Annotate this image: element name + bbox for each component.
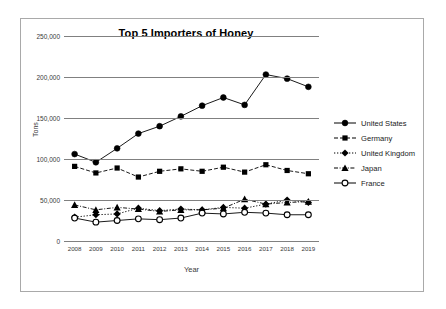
legend-item-united-kingdom[interactable]: United Kingdom: [333, 148, 415, 158]
data-point-marker: [93, 170, 98, 175]
x-axis-tick-label: 2018: [280, 245, 294, 252]
data-point-marker: [178, 166, 183, 171]
data-point-marker: [136, 174, 141, 179]
legend-item-japan[interactable]: Japan: [333, 163, 415, 173]
series-japan: [71, 196, 312, 215]
legend-item-united-states[interactable]: United States: [333, 118, 415, 128]
plot-area: 050,000100,000150,000200,000250,000 2008…: [64, 36, 319, 241]
x-axis-title: Year: [64, 265, 319, 274]
data-point-marker: [305, 212, 311, 218]
x-axis-tick-label: 2017: [259, 245, 273, 252]
data-point-marker: [306, 171, 311, 176]
data-point-marker: [115, 165, 120, 170]
gridline: [64, 77, 319, 78]
data-point-marker: [157, 169, 162, 174]
legend-key-icon: [333, 163, 357, 173]
x-axis-tick-label: 2014: [195, 245, 209, 252]
data-point-marker: [72, 151, 78, 157]
x-axis-tick-label: 2019: [301, 245, 315, 252]
gridline: [64, 159, 319, 160]
series-line: [75, 212, 309, 222]
chart-container: Top 5 Importers of Honey Tons 050,000100…: [20, 18, 424, 292]
data-point-marker: [178, 215, 184, 221]
data-point-marker: [285, 168, 290, 173]
y-axis-tick-label: 0: [56, 238, 60, 245]
legend-key-icon: [333, 133, 357, 143]
chart-legend: United StatesGermanyUnited KingdomJapanF…: [333, 118, 415, 188]
x-axis-tick-label: 2010: [110, 245, 124, 252]
data-point-marker: [342, 135, 347, 140]
x-axis-tick-label: 2009: [89, 245, 103, 252]
x-axis-tick-label: 2015: [216, 245, 230, 252]
data-point-marker: [220, 211, 226, 217]
legend-key-icon: [333, 178, 357, 188]
data-point-marker: [341, 149, 348, 156]
data-point-marker: [93, 219, 99, 225]
series-line: [75, 165, 309, 177]
data-point-marker: [305, 84, 311, 90]
x-axis-tick-label: 2012: [153, 245, 167, 252]
y-axis-tick-label: 250,000: [37, 33, 61, 40]
legend-item-label: Germany: [361, 134, 392, 143]
data-point-marker: [72, 215, 78, 221]
data-point-marker: [135, 131, 141, 137]
data-point-marker: [93, 159, 99, 165]
series-line: [75, 199, 309, 211]
series-germany: [72, 162, 311, 180]
data-point-marker: [242, 170, 247, 175]
data-point-marker: [242, 102, 248, 108]
gridline: [64, 36, 319, 37]
data-point-marker: [200, 169, 205, 174]
legend-key-icon: [333, 118, 357, 128]
data-point-marker: [284, 212, 290, 218]
data-point-marker: [71, 201, 78, 208]
data-point-marker: [135, 216, 141, 222]
data-point-marker: [342, 120, 348, 126]
x-axis-line: [64, 241, 319, 242]
data-point-marker: [157, 217, 163, 223]
data-point-marker: [263, 162, 268, 167]
data-point-marker: [220, 95, 226, 101]
data-point-marker: [114, 210, 121, 217]
legend-item-france[interactable]: France: [333, 178, 415, 188]
data-point-marker: [114, 218, 120, 224]
data-point-marker: [157, 123, 163, 129]
y-axis-tick-label: 200,000: [37, 74, 61, 81]
legend-item-label: United States: [361, 119, 407, 128]
x-axis-tick-label: 2008: [68, 245, 82, 252]
data-point-marker: [199, 103, 205, 109]
data-point-marker: [114, 145, 120, 151]
y-axis-tick-label: 100,000: [37, 156, 61, 163]
data-point-marker: [114, 204, 121, 211]
data-series-layer: [64, 36, 319, 241]
data-point-marker: [221, 165, 226, 170]
x-axis-tick-label: 2011: [132, 245, 145, 252]
x-axis-tick-label: 2016: [238, 245, 252, 252]
data-point-marker: [241, 196, 248, 203]
legend-key-icon: [333, 148, 357, 158]
data-point-marker: [263, 210, 269, 216]
gridline: [64, 200, 319, 201]
y-axis-tick-label: 50,000: [40, 197, 60, 204]
y-axis-title: Tons: [32, 122, 39, 137]
data-point-marker: [72, 164, 77, 169]
x-axis-tick-label: 2013: [174, 245, 188, 252]
data-point-marker: [342, 180, 348, 186]
y-axis-tick-label: 150,000: [37, 115, 61, 122]
legend-item-label: Japan: [361, 164, 382, 173]
legend-item-label: United Kingdom: [361, 149, 415, 158]
legend-item-label: France: [361, 179, 385, 188]
series-france: [72, 209, 312, 225]
data-point-marker: [199, 210, 205, 216]
legend-item-germany[interactable]: Germany: [333, 133, 415, 143]
gridline: [64, 118, 319, 119]
data-point-marker: [242, 209, 248, 215]
